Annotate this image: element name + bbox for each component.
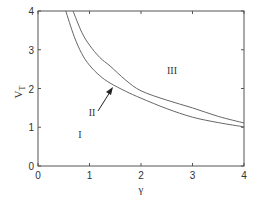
y-tick-label: 2 xyxy=(28,84,34,95)
ticks xyxy=(38,11,244,166)
plot-area xyxy=(38,11,244,166)
tick-labels: 0123401234 xyxy=(28,6,247,181)
y-tick-label: 1 xyxy=(28,122,34,133)
svg-text:VT: VT xyxy=(12,85,27,98)
y-axis-label: VT xyxy=(12,85,27,98)
x-tick-label: 2 xyxy=(138,170,144,181)
curve-upper-boundary xyxy=(73,11,244,123)
chart: 0123401234 I II III γ VT xyxy=(0,0,259,202)
y-axis-label-sub: T xyxy=(18,85,27,90)
arrow-head-icon xyxy=(106,87,113,95)
arrow-shaft xyxy=(98,92,110,111)
y-axis-label-main: V xyxy=(12,90,24,98)
y-tick-label: 3 xyxy=(28,45,34,56)
x-tick-label: 3 xyxy=(190,170,196,181)
x-tick-label: 1 xyxy=(87,170,93,181)
x-tick-label: 4 xyxy=(241,170,247,181)
y-tick-label: 0 xyxy=(28,161,34,172)
y-tick-label: 4 xyxy=(28,6,34,17)
x-axis-label: γ xyxy=(138,183,144,195)
region-label-III: III xyxy=(167,65,177,76)
x-tick-label: 0 xyxy=(35,170,41,181)
region-label-II: II xyxy=(89,107,96,118)
arrow-annotation xyxy=(98,87,113,111)
plot-frame xyxy=(38,11,244,166)
region-label-I: I xyxy=(78,129,81,140)
